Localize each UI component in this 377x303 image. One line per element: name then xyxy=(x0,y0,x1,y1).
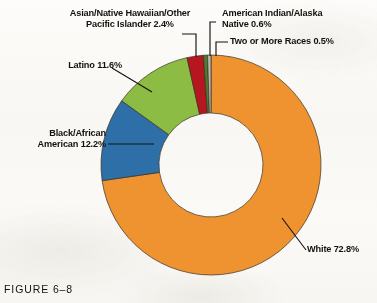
callout-label-american-indian-alaska-native: American Indian/Alaska Native 0.6% xyxy=(222,8,368,30)
donut-slice-group xyxy=(101,55,321,275)
callout-label-latino: Latino 11.6% xyxy=(28,60,122,71)
callout-label-two-or-more-races: Two or More Races 0.5% xyxy=(230,36,374,47)
callout-label-white: White 72.8% xyxy=(307,244,377,255)
figure-page: Asian/Native Hawaiian/Other Pacific Isla… xyxy=(0,0,377,303)
leader-line-asian xyxy=(182,34,196,57)
figure-caption: FIGURE 6–8 xyxy=(4,283,73,295)
callout-label-black-african-american: Black/African American 12.2% xyxy=(6,128,106,150)
callout-label-asian-pacific-islander: Asian/Native Hawaiian/Other Pacific Isla… xyxy=(46,8,214,30)
leader-line-two-or-more xyxy=(216,42,228,56)
